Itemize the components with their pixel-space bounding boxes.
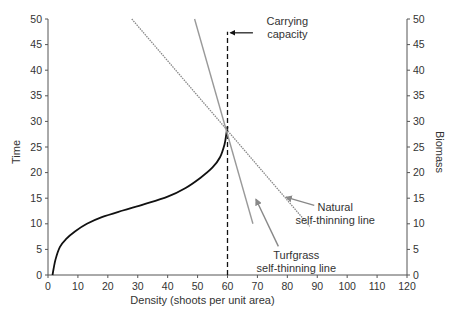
x-tick-label: 70 xyxy=(252,280,264,292)
annotations-layer: CarryingcapacityNaturalself-thinning lin… xyxy=(230,15,374,273)
y2-tick-label: 15 xyxy=(413,192,425,204)
x-tick-label: 40 xyxy=(162,280,174,292)
y-tick-label: 30 xyxy=(30,115,42,127)
carrying-capacity-annotation: Carryingcapacity xyxy=(230,15,308,40)
x-tick-label: 20 xyxy=(102,280,114,292)
annotation-label-line: self-thinning line xyxy=(295,214,375,226)
x-tick-label: 90 xyxy=(311,280,323,292)
y2-tick-label: 40 xyxy=(413,64,425,76)
annotation-label-line: Natural xyxy=(317,201,352,213)
annotation-label: Naturalself-thinning line xyxy=(295,201,375,226)
y-axis-title: Time xyxy=(10,140,22,164)
x-tick-label: 30 xyxy=(132,280,144,292)
growth-curve-line xyxy=(52,127,227,275)
annotation-label-line: Carrying xyxy=(267,15,309,27)
y2-tick-label: 30 xyxy=(413,115,425,127)
natural-self-thinning-annotation: Naturalself-thinning line xyxy=(286,197,375,226)
annotation-label: Turfgrassself-thinning line xyxy=(257,249,337,274)
x-tick-label: 10 xyxy=(72,280,84,292)
annotation-label-line: self-thinning line xyxy=(257,262,337,274)
x-tick-label: 110 xyxy=(369,280,386,292)
x-axis-title: Density (shoots per unit area) xyxy=(130,294,274,306)
y2-tick-label: 0 xyxy=(413,269,419,281)
annotation-label: Carryingcapacity xyxy=(267,15,309,40)
y-tick-label: 0 xyxy=(36,269,42,281)
y2-tick-label: 5 xyxy=(413,243,419,255)
series-layer xyxy=(52,19,309,275)
chart-container: 0510152025303540455005101520253035404550… xyxy=(0,0,452,322)
y-tick-label: 50 xyxy=(30,13,42,25)
y-tick-label: 35 xyxy=(30,89,42,101)
y2-tick-label: 35 xyxy=(413,89,425,101)
y-tick-label: 20 xyxy=(30,166,42,178)
y2-tick-label: 50 xyxy=(413,13,425,25)
y2-tick-label: 25 xyxy=(413,141,425,153)
chart-svg: 0510152025303540455005101520253035404550… xyxy=(0,0,452,322)
annotation-arrow xyxy=(256,199,278,246)
annotation-label-line: Turfgrass xyxy=(273,249,320,261)
x-tick-label: 120 xyxy=(398,280,416,292)
x-tick-label: 100 xyxy=(338,280,356,292)
y-tick-label: 45 xyxy=(30,38,42,50)
y-tick-label: 40 xyxy=(30,64,42,76)
y2-tick-label: 20 xyxy=(413,166,425,178)
natural-self-thinning-line xyxy=(132,19,310,226)
x-tick-label: 0 xyxy=(45,280,51,292)
y-tick-label: 10 xyxy=(30,217,42,229)
annotation-label-line: capacity xyxy=(267,28,308,40)
y2-tick-label: 10 xyxy=(413,217,425,229)
x-tick-label: 80 xyxy=(281,280,293,292)
y2-tick-label: 45 xyxy=(413,38,425,50)
x-tick-label: 60 xyxy=(222,280,234,292)
y-tick-label: 15 xyxy=(30,192,42,204)
y-tick-label: 5 xyxy=(36,243,42,255)
y-tick-label: 25 xyxy=(30,141,42,153)
turfgrass-self-thinning-line xyxy=(195,19,253,224)
y2-axis-title: Biomass xyxy=(434,131,446,174)
x-tick-label: 50 xyxy=(192,280,204,292)
